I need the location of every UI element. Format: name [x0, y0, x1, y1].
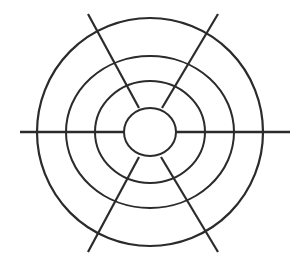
concentric-circles-diagram	[0, 0, 301, 265]
figure-canvas	[0, 0, 301, 265]
